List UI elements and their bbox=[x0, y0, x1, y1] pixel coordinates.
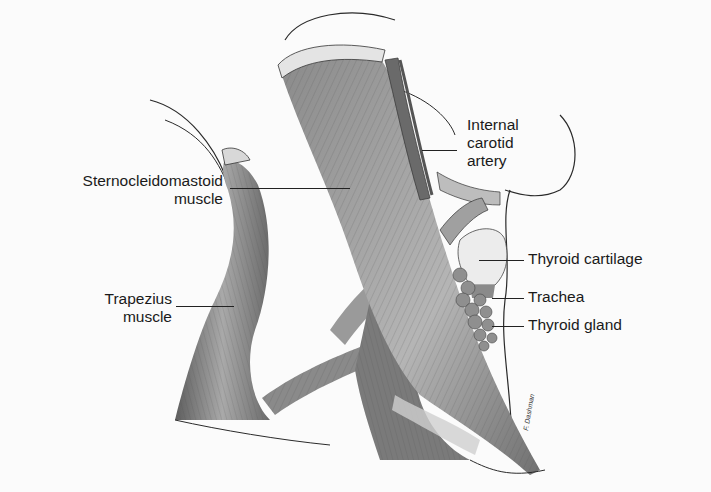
label-thyroid-cartilage: Thyroid cartilage bbox=[528, 250, 643, 268]
leader-thyroid-gland bbox=[492, 326, 524, 327]
label-trapezius-line2: muscle bbox=[60, 308, 172, 326]
leader-thyroid-cartilage bbox=[479, 260, 524, 261]
label-thyroid-gland: Thyroid gland bbox=[528, 316, 622, 334]
label-internal-carotid-line2: carotid bbox=[467, 134, 519, 152]
label-sternocleidomastoid-line1: Sternocleidomastoid bbox=[30, 172, 223, 190]
leader-sternocleidomastoid bbox=[230, 188, 350, 189]
leader-trachea bbox=[492, 298, 524, 299]
head-outline bbox=[285, 13, 395, 40]
label-sternocleidomastoid-line2: muscle bbox=[30, 190, 223, 208]
label-trapezius-line1: Trapezius bbox=[60, 290, 172, 308]
label-internal-carotid-artery: Internal carotid artery bbox=[467, 116, 519, 170]
label-sternocleidomastoid: Sternocleidomastoid muscle bbox=[30, 172, 223, 208]
leader-internal-carotid bbox=[422, 150, 457, 151]
front-neck-outline bbox=[504, 190, 512, 440]
label-trapezius: Trapezius muscle bbox=[60, 290, 172, 326]
neck-outline-back bbox=[150, 100, 225, 175]
label-internal-carotid-line1: Internal bbox=[467, 116, 519, 134]
hyoid-bone bbox=[437, 172, 500, 205]
neck-anatomy-illustration bbox=[0, 0, 711, 492]
label-trachea: Trachea bbox=[528, 288, 584, 306]
label-internal-carotid-line3: artery bbox=[467, 152, 519, 170]
leader-trapezius bbox=[176, 306, 234, 307]
